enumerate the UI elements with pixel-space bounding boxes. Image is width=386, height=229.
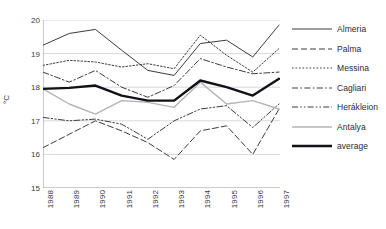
chart-legend: AlmeriaPalmaMessinaCagliariHerákleionAnt… <box>292 22 386 162</box>
series-line-almeria <box>43 25 279 75</box>
y-axis-tick-labels: 151617181920 <box>10 20 40 188</box>
x-axis-tick-label: 1989 <box>72 190 81 208</box>
legend-line-swatch <box>292 141 332 151</box>
legend-item-label: Palma <box>337 44 361 54</box>
x-axis-tick-label: 1993 <box>177 190 186 208</box>
legend-item-herkleion[interactable]: Herákleion <box>292 100 378 114</box>
y-axis-tick-label: 20 <box>31 16 40 25</box>
y-axis-tick-label: 18 <box>31 83 40 92</box>
legend-item-messina[interactable]: Messina <box>292 61 369 75</box>
legend-item-antalya[interactable]: Antalya <box>292 120 366 134</box>
x-axis-tick-label: 1988 <box>46 190 55 208</box>
legend-line-swatch <box>292 24 332 34</box>
legend-line-swatch <box>292 102 332 112</box>
legend-item-label: Antalya <box>337 122 366 132</box>
series-line-herkleion <box>43 104 279 139</box>
legend-line-swatch <box>292 63 332 73</box>
y-axis-tick-label: 17 <box>31 116 40 125</box>
legend-item-label: Almeria <box>337 24 366 34</box>
legend-line-swatch <box>292 83 332 93</box>
legend-line-swatch <box>292 44 332 54</box>
x-axis-tick-label: 1997 <box>282 190 291 208</box>
chart-container: °C 151617181920 198819891990199119921993… <box>0 0 386 229</box>
legend-item-average[interactable]: average <box>292 139 368 153</box>
legend-item-almeria[interactable]: Almeria <box>292 22 366 36</box>
x-axis-tick-label: 1990 <box>98 190 107 208</box>
legend-item-label: Messina <box>337 63 369 73</box>
series-line-average <box>43 79 279 101</box>
legend-item-label: Herákleion <box>337 102 378 112</box>
x-axis-tick-label: 1994 <box>203 190 212 208</box>
y-axis-tick-label: 16 <box>31 150 40 159</box>
series-line-palma <box>43 109 279 159</box>
chart-plot-svg <box>43 20 280 188</box>
x-axis-tick-label: 1996 <box>256 190 265 208</box>
legend-item-cagliari[interactable]: Cagliari <box>292 81 366 95</box>
y-axis-tick-label: 19 <box>31 49 40 58</box>
x-axis-tick-label: 1995 <box>230 190 239 208</box>
plot-area <box>43 20 280 188</box>
x-axis-tick-labels: 1988198919901991199219931994199519961997 <box>43 190 280 228</box>
legend-item-label: Cagliari <box>337 83 366 93</box>
legend-item-label: average <box>337 141 368 151</box>
legend-line-swatch <box>292 122 332 132</box>
y-axis-tick-label: 15 <box>31 184 40 193</box>
x-axis-tick-label: 1992 <box>151 190 160 208</box>
legend-item-palma[interactable]: Palma <box>292 42 361 56</box>
x-axis-tick-label: 1991 <box>125 190 134 208</box>
